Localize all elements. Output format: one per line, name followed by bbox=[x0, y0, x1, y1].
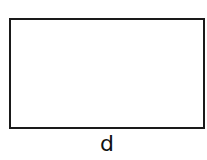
rectangle-shape bbox=[9, 18, 205, 129]
width-label: d bbox=[0, 131, 207, 157]
